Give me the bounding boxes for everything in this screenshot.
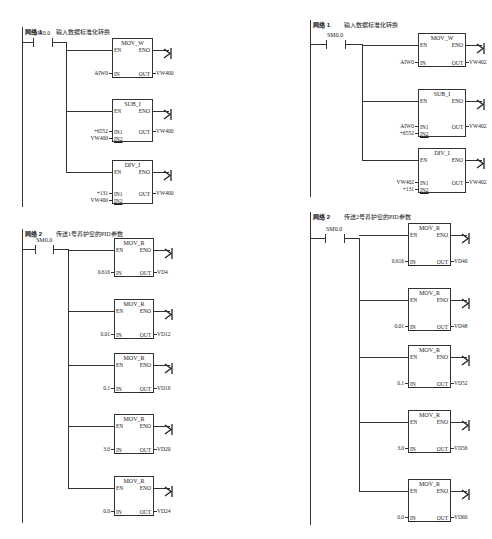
en-pin: EN (116, 308, 123, 314)
wire (310, 238, 325, 239)
output-operand[interactable]: VD4 (157, 269, 168, 275)
output-operand[interactable]: VD20 (157, 446, 170, 452)
eno-pin: ENO (140, 485, 151, 491)
en-pin: EN (114, 169, 121, 175)
contact-left-bar (33, 38, 34, 47)
block-box[interactable]: MOV_WENENOINOUT (418, 33, 466, 67)
network-comment: 输入数据标准化转换 (344, 22, 398, 28)
block-box[interactable]: MOV_RENENOINOUT (114, 476, 154, 516)
input-operand[interactable]: +131 (97, 190, 108, 196)
block-name: MOV_R (409, 481, 450, 487)
network-label: 网络 2 (313, 214, 330, 220)
en-pin: EN (116, 247, 123, 253)
eno-arrow-icon (163, 45, 173, 56)
eno-arrow-icon (163, 106, 173, 117)
block-box[interactable]: SUB_IENENOIN1IN2OUT (112, 99, 153, 142)
eno-pin: ENO (140, 362, 151, 368)
output-operand[interactable]: VD48 (454, 323, 467, 329)
network-header[interactable]: 网络 1输入数据标准化转换 (313, 20, 398, 29)
input-operand[interactable]: 3.0 (397, 445, 404, 451)
block-box[interactable]: MOV_RENENOINOUT (114, 299, 154, 339)
block-box[interactable]: MOV_RENENOINOUT (114, 353, 154, 393)
input-operand[interactable]: VW400 (91, 197, 108, 203)
eno-pin: ENO (139, 169, 150, 175)
network-comment: 传送2号养护窑的PID参数 (344, 214, 411, 220)
output-operand[interactable]: VW402 (469, 59, 486, 65)
en-wire (359, 491, 408, 492)
output-operand[interactable]: VW402 (469, 179, 486, 185)
input-operand[interactable]: 3.0 (103, 446, 110, 452)
power-rail (310, 212, 311, 525)
eno-pin: ENO (437, 354, 448, 360)
contact-left-bar (35, 245, 36, 254)
eno-arrow-icon (164, 421, 174, 432)
branch-wire (68, 249, 69, 488)
input-operand[interactable]: 0.01 (394, 323, 404, 329)
output-operand[interactable]: VW400 (156, 190, 173, 196)
en-pin: EN (420, 157, 427, 163)
block-box[interactable]: MOV_RENENOINOUT (408, 410, 451, 453)
block-box[interactable]: DIV_IENENOIN1IN2OUT (418, 148, 466, 193)
block-name: MOV_R (115, 240, 153, 246)
input-operand[interactable]: 0.1 (103, 385, 110, 391)
block-box[interactable]: SUB_IENENOIN1IN2OUT (418, 89, 466, 137)
block-box[interactable]: MOV_WENENOINOUT (112, 38, 153, 78)
input-operand[interactable]: VW402 (397, 179, 414, 185)
en-wire (359, 235, 408, 236)
power-rail (310, 20, 311, 197)
contact-address: SM0.0 (36, 237, 52, 243)
out-pin: OUT (437, 515, 448, 521)
input-operand[interactable]: 0.0 (103, 508, 110, 514)
input-operand[interactable]: 0.01 (100, 331, 110, 337)
block-box[interactable]: MOV_RENENOINOUT (408, 479, 451, 522)
input-operand[interactable]: AIW0 (400, 59, 414, 65)
out-pin: OUT (139, 71, 150, 77)
en-pin: EN (420, 42, 427, 48)
input-operand[interactable]: AIW0 (400, 123, 414, 129)
en-wire (68, 311, 114, 312)
block-box[interactable]: MOV_RENENOINOUT (408, 288, 451, 331)
output-operand[interactable]: VD12 (157, 331, 170, 337)
en-wire (68, 488, 114, 489)
input-operand[interactable]: +6552 (400, 130, 414, 136)
en-wire (66, 172, 112, 173)
eno-arrow-icon (461, 486, 471, 497)
block-box[interactable]: MOV_RENENOINOUT (114, 414, 154, 454)
network-comment: 传送1号养护窑的PID参数 (56, 231, 123, 237)
input-operand[interactable]: 0.616 (98, 269, 110, 275)
input-pin: IN1 (114, 129, 123, 135)
input-operand[interactable]: 0.1 (397, 380, 404, 386)
input-operand[interactable]: +131 (403, 186, 414, 192)
block-box[interactable]: MOV_RENENOINOUT (114, 238, 154, 277)
block-box[interactable]: MOV_RENENOINOUT (408, 345, 451, 388)
out-pin: OUT (452, 60, 463, 66)
output-operand[interactable]: VW400 (156, 70, 173, 76)
output-operand[interactable]: VD40 (454, 258, 467, 264)
input-operand[interactable]: 0.0 (397, 514, 404, 520)
eno-pin: ENO (437, 232, 448, 238)
output-operand[interactable]: VD52 (454, 380, 467, 386)
input-operand[interactable]: +6552 (94, 128, 108, 134)
network-label: 网络 1 (313, 22, 330, 28)
eno-arrow-icon (163, 167, 173, 178)
input-pin: IN2 (420, 131, 429, 137)
block-name: SUB_I (113, 101, 152, 107)
input-operand[interactable]: AIW0 (94, 70, 108, 76)
output-operand[interactable]: VW402 (469, 123, 486, 129)
eno-arrow-icon (461, 295, 471, 306)
out-pin: OUT (437, 324, 448, 330)
input-operand[interactable]: VW400 (91, 135, 108, 141)
output-operand[interactable]: VD24 (157, 508, 170, 514)
output-operand[interactable]: VW400 (156, 128, 173, 134)
eno-pin: ENO (452, 42, 463, 48)
output-operand[interactable]: VD16 (157, 385, 170, 391)
out-pin: OUT (140, 332, 151, 338)
wire (345, 44, 362, 45)
input-operand[interactable]: 0.616 (392, 258, 404, 264)
block-box[interactable]: MOV_RENENOINOUT (408, 223, 451, 266)
network-comment: 输入数据标准化转换 (56, 29, 110, 35)
output-operand[interactable]: VD56 (454, 445, 467, 451)
block-box[interactable]: DIV_IENENOIN1IN2OUT (112, 160, 153, 204)
output-operand[interactable]: VD60 (454, 514, 467, 520)
network-header[interactable]: 网络 2传送2号养护窑的PID参数 (313, 212, 411, 221)
